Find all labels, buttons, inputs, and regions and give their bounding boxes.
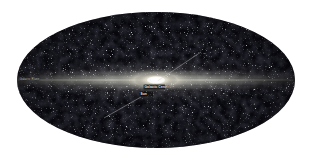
galactic-center-marker — [156, 80, 158, 82]
sky-vignette — [17, 12, 295, 148]
all-sky-map-figure: Galactic Plane Galactic Center Sun — [0, 0, 313, 158]
galactic-plane-label: Galactic Plane — [20, 77, 40, 81]
galactic-center-label: Galactic Center — [145, 85, 170, 89]
sun-label: Sun — [141, 92, 147, 96]
sky-map-svg: Galactic Plane Galactic Center Sun — [0, 0, 313, 158]
